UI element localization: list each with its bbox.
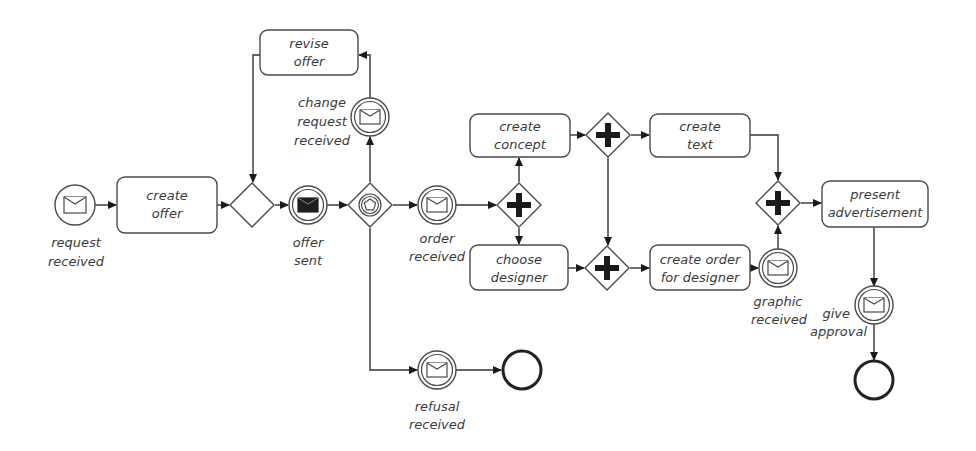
event-label: received [48, 254, 105, 269]
flow-revise-offer-to-gateway [253, 55, 260, 182]
task-label: choose [496, 252, 542, 267]
event-label: sent [294, 253, 323, 268]
event-label: received [409, 249, 466, 264]
bpmn-diagram: create offer revise offer create concept… [0, 0, 976, 451]
event-label: order [420, 231, 457, 246]
event-label: give [822, 306, 850, 321]
task-create-concept[interactable]: create concept [470, 114, 570, 157]
task-label: for designer [661, 270, 741, 285]
event-order-received[interactable]: order received [409, 186, 466, 264]
task-revise-offer[interactable]: revise offer [260, 30, 358, 75]
envelope-icon [360, 110, 380, 124]
gateway-event-based[interactable] [348, 183, 392, 227]
event-offer-sent[interactable]: offer sent [289, 186, 327, 268]
event-give-approval[interactable]: give approval [810, 286, 893, 339]
event-label: received [409, 417, 466, 432]
event-graphic-received[interactable]: graphic received [751, 249, 808, 327]
task-label: create [679, 119, 721, 134]
envelope-icon [427, 363, 447, 377]
task-label: create order [660, 252, 742, 267]
task-create-offer[interactable]: create offer [117, 177, 217, 233]
envelope-icon [427, 198, 447, 212]
task-label: text [687, 137, 714, 152]
gateway-parallel-split-2[interactable] [586, 113, 630, 157]
task-create-text[interactable]: create text [650, 114, 750, 157]
task-label: revise [289, 36, 328, 51]
gateway-parallel-join-2[interactable] [756, 181, 800, 225]
task-label: present [849, 187, 901, 202]
task-create-order-for-designer[interactable]: create order for designer [650, 245, 750, 290]
event-label: refusal [415, 399, 460, 414]
event-label: received [751, 312, 808, 327]
task-present-advertisement[interactable]: present advertisement [822, 181, 928, 227]
envelope-filled-icon [298, 198, 318, 212]
task-choose-designer[interactable]: choose designer [470, 245, 568, 290]
plus-icon-bar [507, 202, 531, 208]
task-label: offer [152, 206, 184, 221]
event-label: received [294, 133, 351, 148]
task-label: create [499, 119, 541, 134]
event-label: approval [810, 324, 867, 339]
gateway-exclusive-merge[interactable] [230, 183, 274, 227]
event-label: request [297, 114, 348, 129]
envelope-icon [768, 261, 788, 275]
event-end-main[interactable] [855, 361, 893, 399]
plus-icon-bar [595, 265, 619, 271]
event-refusal-received[interactable]: refusal received [409, 351, 466, 432]
event-change-request-received[interactable]: change request received [294, 95, 389, 148]
task-label: advertisement [828, 205, 924, 220]
event-label: graphic [754, 294, 803, 309]
event-request-received[interactable]: request received [48, 185, 105, 269]
gateway-parallel-split-1[interactable] [497, 183, 541, 227]
envelope-icon [64, 197, 86, 213]
flow-change-request-to-revise-offer [359, 55, 370, 98]
event-end-refusal[interactable] [503, 351, 541, 389]
envelope-icon [864, 298, 884, 312]
task-label: concept [494, 137, 547, 152]
event-label: offer [293, 235, 325, 250]
event-label: change [298, 95, 346, 110]
plus-icon-bar [596, 132, 620, 138]
plus-icon-bar [766, 200, 790, 206]
flow-create-text-to-join2 [750, 135, 778, 180]
gateway-parallel-join-1[interactable] [585, 246, 629, 290]
task-label: offer [294, 54, 326, 69]
event-label: request [51, 235, 102, 250]
task-label: create [146, 188, 188, 203]
task-label: designer [491, 270, 549, 285]
